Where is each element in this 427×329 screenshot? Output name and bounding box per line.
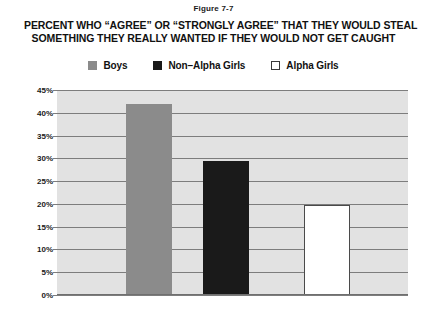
x-axis-baseline — [57, 294, 408, 295]
legend-item-boys: Boys — [88, 60, 127, 71]
figure-container: Figure 7-7 PERCENT WHO “AGREE” OR “STRON… — [0, 0, 427, 329]
y-axis-tick-label: 25% — [5, 177, 53, 186]
y-axis-tick-label: 5% — [5, 268, 53, 277]
y-axis-tick-label: 15% — [5, 222, 53, 231]
gridline — [57, 90, 408, 91]
chart-legend: Boys Non–Alpha Girls Alpha Girls — [0, 60, 427, 71]
legend-item-alpha-girls: Alpha Girls — [271, 60, 338, 71]
y-axis-tick-label: 30% — [5, 154, 53, 163]
gridline — [57, 158, 408, 159]
y-axis-tick-label: 20% — [5, 199, 53, 208]
plot-area — [57, 90, 408, 295]
legend-item-non-alpha-girls: Non–Alpha Girls — [153, 60, 245, 71]
y-axis-tick-label: 0% — [5, 291, 53, 300]
y-axis-tick-label: 10% — [5, 245, 53, 254]
bar-non-alpha-girls — [203, 161, 249, 295]
legend-label-boys: Boys — [103, 60, 127, 71]
gridline — [57, 136, 408, 137]
chart-title-line-2: SOMETHING THEY REALLY WANTED IF THEY WOU… — [24, 32, 403, 45]
chart-title-line-1: PERCENT WHO “AGREE” OR “STRONGLY AGREE” … — [24, 19, 403, 32]
figure-caption: Figure 7-7 — [0, 4, 427, 13]
y-axis-tick-label: 35% — [5, 131, 53, 140]
gridline — [57, 295, 408, 296]
y-axis-tick-label: 40% — [5, 108, 53, 117]
legend-swatch-boys-icon — [88, 61, 97, 70]
gridline — [57, 113, 408, 114]
legend-swatch-non-alpha-girls-icon — [153, 61, 162, 70]
bar-boys — [126, 104, 172, 295]
y-axis-tick-label: 45% — [5, 86, 53, 95]
bar-alpha-girls — [304, 205, 350, 295]
legend-label-alpha-girls: Alpha Girls — [286, 60, 338, 71]
legend-swatch-alpha-girls-icon — [271, 61, 280, 70]
chart-title: PERCENT WHO “AGREE” OR “STRONGLY AGREE” … — [24, 19, 403, 45]
y-axis-tick-labels: 45%40%35%30%25%20%15%10%5%0% — [0, 90, 53, 295]
legend-label-non-alpha-girls: Non–Alpha Girls — [168, 60, 245, 71]
